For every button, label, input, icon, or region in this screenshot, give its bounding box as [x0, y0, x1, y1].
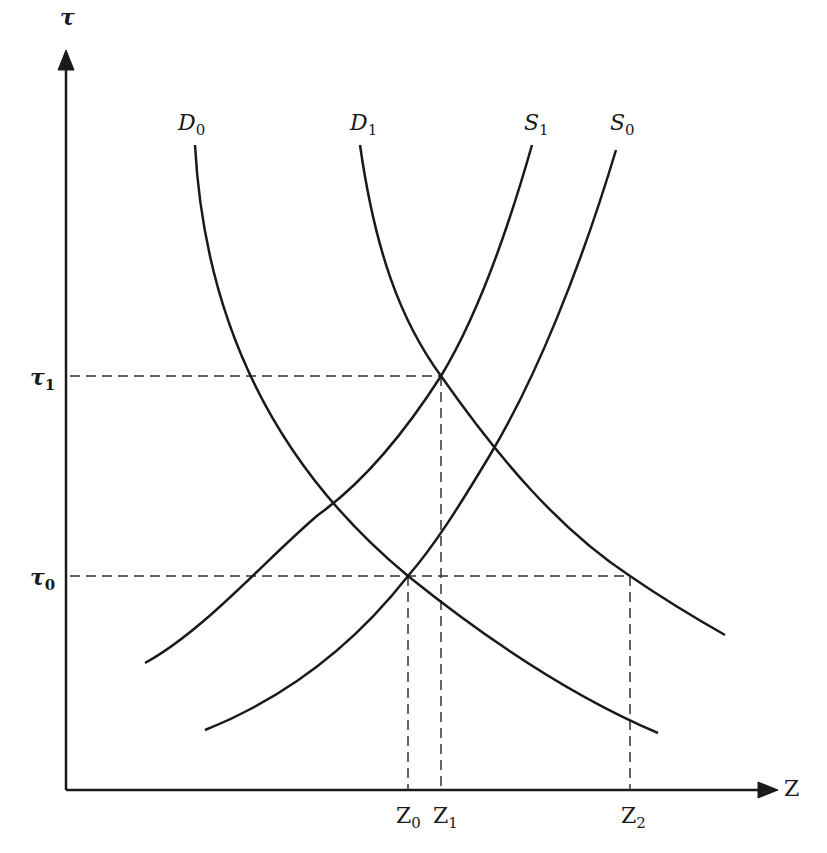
- supply-curve-s0: [205, 150, 616, 730]
- tick-label-z2: Z2: [621, 805, 646, 831]
- tick-label-z0: Z0: [396, 805, 421, 831]
- demand-curve-d1: [360, 145, 725, 635]
- curve-label-s0: S0: [610, 112, 635, 138]
- x-axis-arrow-icon: [758, 782, 778, 798]
- axes: [58, 50, 778, 798]
- tick-label-tau0: τ0: [30, 566, 55, 593]
- x-axis-label: Z: [784, 778, 799, 800]
- guide-lines: [70, 376, 630, 790]
- curves: [145, 145, 725, 733]
- diagram-canvas: [0, 0, 827, 853]
- curve-label-d0: D0: [178, 112, 205, 138]
- curve-label-d1: D1: [350, 112, 377, 138]
- curve-label-s1: S1: [524, 112, 549, 138]
- y-axis-arrow-icon: [58, 50, 74, 70]
- tick-label-tau1: τ1: [30, 366, 55, 393]
- tick-label-z1: Z1: [433, 805, 458, 831]
- y-axis-label: τ: [60, 6, 75, 28]
